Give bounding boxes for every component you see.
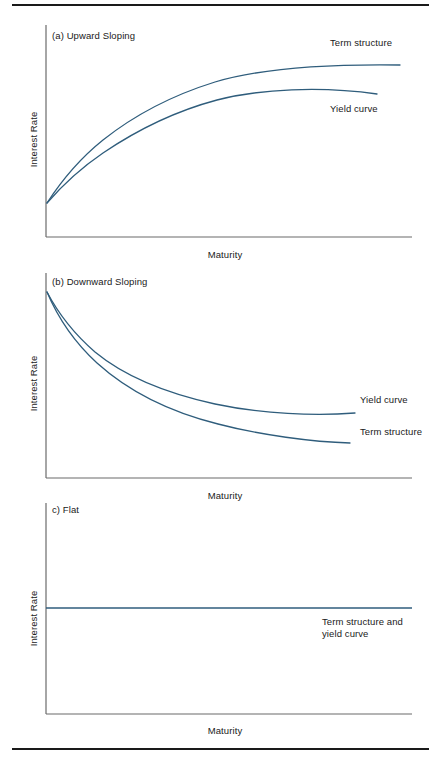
- panel-a-plot: [0, 20, 435, 270]
- panel-b-yield-curve: [47, 292, 355, 414]
- panel-a-x-axis-label: Maturity: [180, 249, 270, 260]
- panel-b-label-term-structure: Term structure: [360, 426, 422, 438]
- panel-flat: c) Flat Interest Rate Maturity Term stru…: [0, 498, 435, 748]
- panel-c-x-axis-label: Maturity: [180, 725, 270, 736]
- panel-b-title: (b) Downward Sloping: [52, 276, 147, 287]
- panel-a-title: (a) Upward Sloping: [52, 30, 135, 41]
- panel-b-y-axis-label: Interest Rate: [28, 344, 39, 424]
- panel-a-term-structure-curve: [47, 65, 400, 203]
- panel-a-label-term-structure: Term structure: [330, 37, 392, 49]
- bottom-rule: [12, 748, 429, 750]
- panel-c-label-combined-line1: Term structure and: [322, 616, 403, 628]
- panel-downward-sloping: (b) Downward Sloping Interest Rate Matur…: [0, 268, 435, 518]
- panel-c-title: c) Flat: [52, 504, 79, 515]
- panel-b-label-yield-curve: Yield curve: [360, 394, 408, 406]
- panel-upward-sloping: (a) Upward Sloping Interest Rate Maturit…: [0, 20, 435, 270]
- panel-c-label-combined-line2: yield curve: [322, 628, 369, 640]
- panel-c-y-axis-label: Interest Rate: [28, 579, 39, 659]
- top-rule: [12, 4, 429, 6]
- panel-b-plot: [0, 268, 435, 518]
- panel-a-label-yield-curve: Yield curve: [330, 103, 378, 115]
- figure-container: (a) Upward Sloping Interest Rate Maturit…: [0, 0, 435, 776]
- panel-b-term-structure-curve: [47, 292, 350, 443]
- panel-a-y-axis-label: Interest Rate: [28, 100, 39, 180]
